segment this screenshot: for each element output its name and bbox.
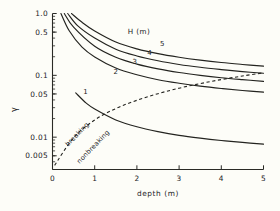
y-tick-label: 0.5: [35, 28, 48, 37]
x-axis-title: depth (m): [137, 189, 179, 198]
curve-label-5: 5: [160, 40, 164, 48]
y-tick-label: 0.05: [30, 90, 48, 99]
y-tick-label: 0.005: [25, 151, 48, 160]
x-tick-label: 2: [134, 174, 139, 183]
x-tick-label: 4: [219, 174, 224, 183]
chart-figure: 1.00.50.10.050.010.005012345depth (m)γH …: [0, 0, 280, 211]
y-tick-label: 0.1: [35, 71, 48, 80]
curve-H-2: [61, 14, 264, 93]
y-tick-label: 1.0: [35, 9, 48, 18]
chart-svg: 1.00.50.10.050.010.005012345depth (m)γH …: [0, 0, 280, 211]
legend-title: H (m): [128, 27, 150, 36]
curve-label-4: 4: [147, 49, 152, 57]
x-tick-label: 3: [177, 174, 182, 183]
x-tick-label: 0: [50, 174, 55, 183]
x-tick-label: 1: [92, 174, 97, 183]
curve-label-2: 2: [114, 68, 118, 76]
curve-label-1: 1: [83, 88, 87, 96]
y-axis-title: γ: [10, 107, 19, 112]
region-label-breaking: breaking: [64, 121, 91, 148]
y-tick-label: 0.01: [30, 133, 48, 142]
curve-H-5: [71, 14, 263, 67]
curve-label-3: 3: [133, 58, 137, 66]
x-tick-label: 5: [261, 174, 266, 183]
